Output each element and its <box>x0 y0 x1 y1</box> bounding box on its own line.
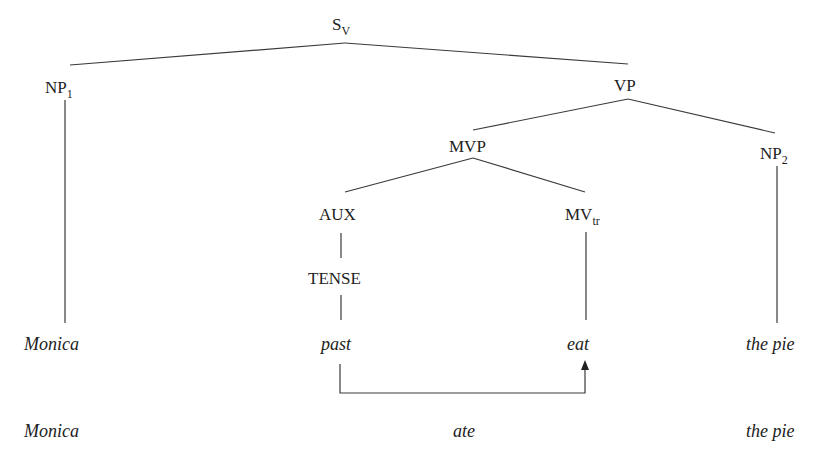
node-np1: NP1 <box>45 78 73 101</box>
edge-mvp-aux <box>345 158 473 192</box>
node-mv: MVtr <box>565 205 600 228</box>
surface-word-monica: Monica <box>23 421 79 441</box>
node-mvp: MVP <box>449 137 486 156</box>
surface-word-ate: ate <box>453 421 475 441</box>
surface-word-the-pie: the pie <box>746 421 794 441</box>
arrow-path <box>340 364 585 393</box>
node-tense: TENSE <box>308 269 361 288</box>
deep-word-past: past <box>319 334 352 354</box>
edge-mvp-mv <box>473 158 585 192</box>
deep-word-the-pie: the pie <box>746 334 794 354</box>
edge-sv-vp <box>345 43 628 64</box>
affix-hopping-arrow <box>340 360 589 393</box>
node-aux: AUX <box>319 205 356 224</box>
node-np2: NP2 <box>760 144 788 167</box>
node-root: SV <box>332 15 350 38</box>
syntax-tree-diagram: SV NP1 VP MVP NP2 AUX MVtr TENSE Monica … <box>0 0 827 457</box>
node-vp: VP <box>614 76 636 95</box>
edge-sv-np1 <box>70 43 345 65</box>
deep-word-eat: eat <box>567 334 590 354</box>
deep-word-monica: Monica <box>23 334 79 354</box>
arrowhead-up-icon <box>581 360 589 370</box>
tree-edges <box>65 43 777 323</box>
edge-vp-mvp <box>473 99 628 130</box>
edge-vp-np2 <box>628 99 775 133</box>
